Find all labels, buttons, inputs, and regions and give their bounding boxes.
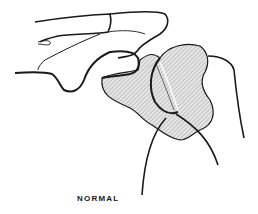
inner-contour [108, 31, 145, 34]
deltoid-contour [208, 56, 244, 138]
acromion-outline [35, 14, 111, 42]
scapula-hatched-region [102, 45, 213, 141]
shoulder-diagram [0, 0, 258, 214]
figure-caption: NORMAL [77, 194, 119, 203]
clavicle-line [38, 41, 50, 45]
